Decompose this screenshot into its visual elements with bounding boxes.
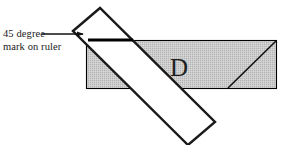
clipped-caption-text: g n e g n e g [12, 0, 66, 8]
callout-line-1: 45 degree [3, 28, 45, 39]
geometry-diagram: g n e g n e g D 45 degree mark on ruler [0, 0, 283, 145]
figure-container: g n e g n e g D 45 degree mark on ruler [0, 0, 283, 145]
region-label-d: D [170, 54, 188, 81]
callout-line-2: mark on ruler [3, 41, 62, 52]
clipped-caption-sliver: g n e g n e g [12, 0, 66, 8]
